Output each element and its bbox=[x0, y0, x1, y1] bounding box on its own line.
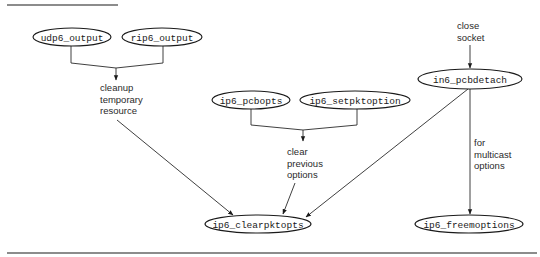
annotation-line: options bbox=[474, 160, 505, 171]
edge-bracket-pktopts bbox=[251, 109, 357, 130]
node-ip6-clearpktopts: ip6_clearpktopts bbox=[205, 215, 311, 233]
annotation-line: options bbox=[287, 169, 318, 180]
annotation-line: cleanup bbox=[100, 82, 133, 93]
annotation-line: multicast bbox=[474, 149, 512, 160]
annotation-line: for bbox=[474, 137, 485, 148]
edge-cleanup-to-clearpktopts bbox=[117, 120, 233, 215]
annotation-line: socket bbox=[457, 32, 485, 43]
annotation-line: close bbox=[457, 20, 479, 31]
node-ip6-pcbopts: ip6_pcbopts bbox=[212, 91, 290, 109]
edge-bracket-output bbox=[71, 46, 163, 68]
annotation-close-socket: close socket bbox=[457, 20, 485, 43]
node-label: ip6_clearpktopts bbox=[212, 220, 303, 231]
annotation-line: clear bbox=[287, 146, 308, 157]
node-label: ip6_setpktoption bbox=[309, 96, 400, 107]
node-label: ip6_freemoptions bbox=[423, 220, 514, 231]
node-label: udp6_output bbox=[41, 33, 104, 44]
node-label: in6_pcbdetach bbox=[433, 75, 507, 86]
annotation-clear: clear previous options bbox=[287, 146, 323, 180]
node-rip6-output: rip6_output bbox=[122, 28, 202, 46]
annotation-cleanup: cleanup temporary resource bbox=[100, 82, 143, 116]
node-udp6-output: udp6_output bbox=[33, 28, 111, 46]
annotation-multicast: for multicast options bbox=[474, 137, 512, 171]
node-ip6-setpktoption: ip6_setpktoption bbox=[300, 91, 410, 109]
node-label: ip6_pcbopts bbox=[220, 96, 283, 107]
node-in6-pcbdetach: in6_pcbdetach bbox=[418, 69, 522, 89]
node-ip6-freemoptions: ip6_freemoptions bbox=[415, 215, 523, 233]
annotation-line: resource bbox=[100, 105, 137, 116]
annotation-line: previous bbox=[287, 158, 323, 169]
call-graph-diagram: udp6_output rip6_output ip6_pcbopts ip6_… bbox=[0, 0, 540, 257]
annotation-line: temporary bbox=[100, 94, 143, 105]
node-label: rip6_output bbox=[131, 33, 194, 44]
edge-clear-to-clearpktopts bbox=[283, 183, 295, 214]
